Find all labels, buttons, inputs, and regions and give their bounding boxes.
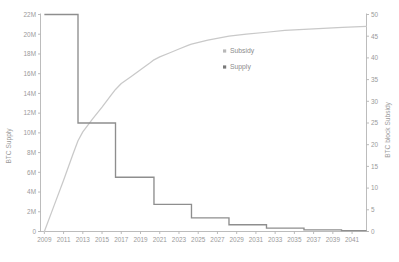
right-tick-label: 15 — [371, 163, 379, 170]
right-tick-label: 25 — [371, 119, 379, 126]
left-axis-ticks: 02M4M6M8M10M12M14M16M18M20M22M — [24, 11, 41, 235]
right-axis-title: BTC block Subsidy — [384, 101, 392, 157]
left-tick-label: 2M — [27, 208, 36, 215]
x-tick-label: 2015 — [95, 236, 110, 243]
chart-legend: SubsidySupply — [223, 47, 255, 71]
x-tick-label: 2025 — [191, 236, 206, 243]
right-tick-label: 10 — [371, 184, 379, 191]
left-tick-label: 18M — [24, 50, 36, 57]
legend-marker-supply[interactable] — [223, 65, 226, 68]
left-tick-label: 16M — [24, 70, 36, 77]
bottom-axis-ticks: 2009201120132015201720192021202320252027… — [37, 232, 359, 244]
x-tick-label: 2013 — [76, 236, 91, 243]
left-tick-label: 0 — [32, 228, 36, 235]
right-tick-label: 50 — [371, 11, 379, 18]
x-tick-label: 2035 — [287, 236, 302, 243]
legend-marker-subsidy[interactable] — [223, 49, 226, 52]
left-tick-label: 22M — [24, 11, 36, 18]
x-tick-label: 2031 — [249, 236, 264, 243]
left-tick-label: 4M — [27, 188, 36, 195]
right-tick-label: 40 — [371, 54, 379, 61]
series-line-subsidy — [44, 15, 366, 231]
left-tick-label: 20M — [24, 31, 36, 38]
left-tick-label: 8M — [27, 149, 36, 156]
x-tick-label: 2019 — [133, 236, 148, 243]
x-tick-label: 2009 — [37, 236, 52, 243]
x-tick-label: 2039 — [326, 236, 341, 243]
right-axis-ticks: 05101520253035404550 — [367, 11, 379, 235]
right-tick-label: 20 — [371, 141, 379, 148]
right-tick-label: 0 — [371, 228, 375, 235]
x-tick-label: 2041 — [345, 236, 360, 243]
left-tick-label: 6M — [27, 169, 36, 176]
right-tick-label: 35 — [371, 76, 379, 83]
x-tick-label: 2037 — [306, 236, 321, 243]
x-tick-label: 2029 — [230, 236, 245, 243]
x-tick-label: 2011 — [57, 236, 71, 243]
left-axis-title: BTC Supply — [5, 128, 13, 164]
right-tick-label: 30 — [371, 98, 379, 105]
chart-container: 02M4M6M8M10M12M14M16M18M20M22M 051015202… — [0, 0, 399, 262]
legend-label-subsidy[interactable]: Subsidy — [230, 47, 255, 55]
x-tick-label: 2023 — [172, 236, 187, 243]
left-tick-label: 14M — [24, 90, 36, 97]
left-tick-label: 12M — [24, 109, 36, 116]
x-tick-label: 2021 — [153, 236, 168, 243]
x-tick-label: 2033 — [268, 236, 283, 243]
right-tick-label: 45 — [371, 33, 379, 40]
right-tick-label: 5 — [371, 206, 375, 213]
series-line-supply — [44, 26, 366, 231]
left-tick-label: 10M — [24, 129, 36, 136]
legend-label-supply[interactable]: Supply — [230, 63, 251, 71]
x-tick-label: 2027 — [210, 236, 225, 243]
x-tick-label: 2017 — [114, 236, 129, 243]
dual-axis-line-chart: 02M4M6M8M10M12M14M16M18M20M22M 051015202… — [0, 0, 399, 262]
